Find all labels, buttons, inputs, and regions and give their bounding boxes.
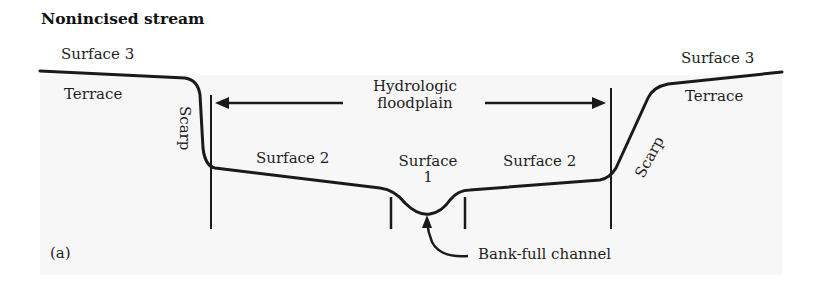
label-scarp-left: Scarp — [176, 106, 193, 150]
label-bankfull-channel: Bank-full channel — [478, 246, 611, 263]
label-terrace-left: Terrace — [64, 86, 122, 103]
label-terrace-right: Terrace — [685, 88, 743, 105]
panel-label: (a) — [50, 245, 71, 262]
label-surface2-right: Surface 2 — [503, 153, 576, 170]
label-hydrologic-floodplain: Hydrologic floodplain — [345, 78, 485, 113]
arrow-up-icon — [422, 215, 432, 228]
diagram-canvas: Nonincised stream Surface 3 Terrace Scar… — [0, 0, 814, 285]
figure-title: Nonincised stream — [41, 10, 204, 28]
cross-section-drawing — [0, 0, 814, 285]
label-surface3-right: Surface 3 — [681, 50, 754, 67]
label-floodplain-line1: Hydrologic — [345, 78, 485, 95]
label-surface1-line2: 1 — [390, 169, 466, 186]
label-floodplain-line2: floodplain — [345, 95, 485, 112]
label-surface1: Surface 1 — [390, 153, 466, 187]
arrow-right-icon — [592, 97, 606, 109]
label-surface3-left: Surface 3 — [61, 46, 134, 63]
label-surface2-left: Surface 2 — [256, 150, 329, 167]
arrow-left-icon — [215, 97, 229, 109]
bankfull-pointer-arrow — [427, 222, 468, 256]
